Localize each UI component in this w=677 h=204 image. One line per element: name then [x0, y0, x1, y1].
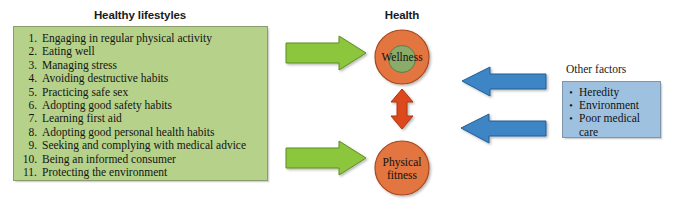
bullet-icon: •	[563, 112, 579, 125]
list-item: •Environment	[563, 99, 660, 112]
list-item-text: Adopting good personal health habits	[42, 126, 214, 139]
bullet-icon: •	[563, 86, 579, 99]
list-item: 6.Adopting good safety habits	[14, 99, 267, 112]
list-item-text: care	[579, 126, 653, 139]
list-item-text: Seeking and complying with medical advic…	[42, 139, 246, 152]
health-title: Health	[352, 9, 452, 21]
other-factors-title: Other factors	[566, 63, 626, 75]
list-item-number: 4.	[14, 72, 42, 85]
list-item-number: 8.	[14, 126, 42, 139]
list-item-number: 7.	[14, 112, 42, 125]
list-item-number: 11.	[14, 166, 42, 179]
blue-arrow-bottom-icon	[461, 114, 546, 143]
list-item-text: Poor medical	[579, 112, 653, 125]
bullet-icon: •	[563, 99, 579, 112]
list-item: 1.Engaging in regular physical activity	[14, 32, 267, 45]
physical-fitness-label: Physical fitness	[362, 156, 442, 181]
healthy-lifestyles-list: 1.Engaging in regular physical activity …	[14, 27, 267, 179]
list-item: 11.Protecting the environment	[14, 166, 267, 179]
list-item-number: 6.	[14, 99, 42, 112]
list-item-text: Being an informed consumer	[42, 153, 176, 166]
physical-fitness-label-line1: Physical	[362, 156, 442, 169]
list-item-text: Learning first aid	[42, 112, 122, 125]
list-item: 10.Being an informed consumer	[14, 153, 267, 166]
list-item-text: Environment	[579, 99, 653, 112]
healthy-lifestyles-title: Healthy lifestyles	[40, 9, 240, 21]
list-item: 8.Adopting good personal health habits	[14, 126, 267, 139]
blue-arrow-top-icon	[462, 67, 546, 96]
list-item: 4.Avoiding destructive habits	[14, 72, 267, 85]
list-item-number: 10.	[14, 153, 42, 166]
list-item: 5.Practicing safe sex	[14, 86, 267, 99]
bullet-icon	[563, 126, 579, 139]
diagram-canvas: Healthy lifestyles 1.Engaging in regular…	[0, 0, 677, 204]
list-item-number: 1.	[14, 32, 42, 45]
list-item-text: Avoiding destructive habits	[42, 72, 168, 85]
list-item-text: Engaging in regular physical activity	[42, 32, 212, 45]
list-item: 7.Learning first aid	[14, 112, 267, 125]
list-item: •Poor medical	[563, 112, 660, 125]
wellness-label: Wellness	[362, 51, 442, 64]
list-item-number: 9.	[14, 139, 42, 152]
list-item-number: 3.	[14, 59, 42, 72]
list-item: care	[563, 126, 660, 139]
list-item-text: Practicing safe sex	[42, 86, 128, 99]
list-item-text: Adopting good safety habits	[42, 99, 172, 112]
list-item-text: Eating well	[42, 45, 95, 58]
physical-fitness-label-line2: fitness	[362, 169, 442, 182]
list-item-number: 5.	[14, 86, 42, 99]
list-item-number: 2.	[14, 45, 42, 58]
list-item: •Heredity	[563, 86, 660, 99]
list-item-text: Managing stress	[42, 59, 117, 72]
green-arrow-bottom-icon	[286, 141, 366, 175]
red-double-arrow-icon	[391, 89, 413, 129]
list-item: 9.Seeking and complying with medical adv…	[14, 139, 267, 152]
list-item: 3.Managing stress	[14, 59, 267, 72]
healthy-lifestyles-box: 1.Engaging in regular physical activity …	[13, 26, 268, 181]
other-factors-list: •Heredity •Environment •Poor medical car…	[563, 82, 660, 139]
list-item-text: Protecting the environment	[42, 166, 167, 179]
green-arrow-top-icon	[286, 36, 366, 70]
other-factors-box: •Heredity •Environment •Poor medical car…	[562, 81, 661, 138]
list-item: 2.Eating well	[14, 45, 267, 58]
list-item-text: Heredity	[579, 86, 653, 99]
